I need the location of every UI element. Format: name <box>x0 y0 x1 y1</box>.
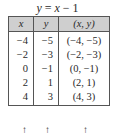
cell-pair: (−2, −3) <box>59 48 110 62</box>
header-pair: (x, y) <box>59 17 110 32</box>
arrow-up-icon: ↑ <box>22 124 27 136</box>
cell-pair: (0, −1) <box>59 62 110 76</box>
cell-y: 3 <box>34 90 59 106</box>
equation-equals: = <box>42 1 55 15</box>
table-row: −4 −5 (−4, −5) <box>9 32 110 49</box>
cell-x: 0 <box>9 62 34 76</box>
equation-rhs-constant: − 1 <box>60 1 79 15</box>
header-y: y <box>34 17 59 32</box>
cell-y: −1 <box>34 62 59 76</box>
cell-x: −2 <box>9 48 34 62</box>
equation-title: y = x − 1 <box>0 1 115 15</box>
cell-y: −3 <box>34 48 59 62</box>
table-row: 2 1 (2, 1) <box>9 76 110 90</box>
table-row: 4 3 (4, 3) <box>9 90 110 106</box>
arrow-up-icon: ↑ <box>83 124 88 136</box>
table-header-row: x y (x, y) <box>9 17 110 32</box>
cell-x: −4 <box>9 32 34 49</box>
cell-x: 4 <box>9 90 34 106</box>
cell-pair: (2, 1) <box>59 76 110 90</box>
values-table: x y (x, y) −4 −5 (−4, −5) −2 −3 (−2, −3)… <box>8 16 110 106</box>
cell-y: −5 <box>34 32 59 49</box>
table-row: −2 −3 (−2, −3) <box>9 48 110 62</box>
arrow-up-icon: ↑ <box>45 124 50 136</box>
cell-pair: (4, 3) <box>59 90 110 106</box>
table-row: 0 −1 (0, −1) <box>9 62 110 76</box>
header-x: x <box>9 17 34 32</box>
cell-y: 1 <box>34 76 59 90</box>
cell-x: 2 <box>9 76 34 90</box>
cell-pair: (−4, −5) <box>59 32 110 49</box>
